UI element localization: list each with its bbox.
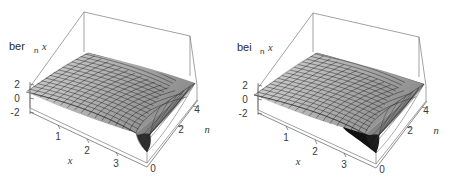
- z-tick-label-2: 2: [14, 79, 20, 90]
- plot-title-ber: ber n x: [9, 40, 47, 55]
- n-tick-label-4: 4: [194, 104, 200, 115]
- x-axis-label: x: [295, 156, 301, 167]
- n-tick-label-2: 2: [178, 124, 184, 135]
- kelvin-function-surface-figure: 2 0 -2 1 2 3 x 0 2 4 n: [0, 0, 450, 188]
- n-axis-label: n: [204, 124, 209, 135]
- x-tick-label-2: 2: [312, 146, 318, 157]
- x-tick-label-2: 2: [84, 145, 90, 156]
- n-tick-label-0: 0: [150, 163, 156, 174]
- n-axis-label: n: [433, 125, 438, 136]
- z-tick-label-neg2: -2: [239, 108, 248, 119]
- x-tick-label-1: 1: [283, 132, 289, 143]
- n-tick-label-2: 2: [407, 125, 413, 136]
- x-tick-label-1: 1: [55, 131, 61, 142]
- n-tick-label-0: 0: [379, 164, 385, 175]
- title-function-name: ber: [9, 40, 25, 52]
- x-axis-label: x: [67, 155, 73, 166]
- z-tick-label-0: 0: [14, 93, 20, 104]
- plot-panel-bei: 2 0 -2 1 2 3 x 0 2 4 n: [225, 0, 450, 188]
- title-function-subscript: n: [260, 47, 264, 56]
- plot-panel-ber: 2 0 -2 1 2 3 x 0 2 4 n: [0, 0, 225, 188]
- x-tick-label-3: 3: [341, 159, 347, 170]
- title-function-subscript: n: [34, 46, 38, 55]
- title-function-argument: x: [41, 41, 47, 52]
- plot-title-bei: bei n x: [237, 41, 273, 56]
- z-tick-label-neg2: -2: [11, 107, 20, 118]
- z-tick-label-2: 2: [242, 80, 248, 91]
- z-tick-label-0: 0: [242, 94, 248, 105]
- title-function-name: bei: [237, 41, 252, 53]
- title-function-argument: x: [267, 42, 273, 53]
- x-tick-label-3: 3: [113, 158, 119, 169]
- n-tick-label-4: 4: [423, 105, 429, 116]
